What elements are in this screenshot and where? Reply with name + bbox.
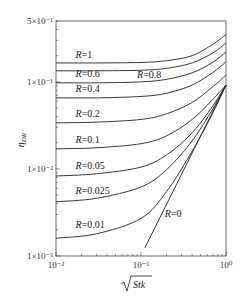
y-tick-label: 1×10⁻² <box>27 164 53 174</box>
curve-label: R=0.2 <box>75 108 100 119</box>
y-axis-label: ηDR <box>15 132 28 147</box>
chart-svg: R=1R=0.8R=0.6R=0.4R=0.2R=0.1R=0.05R=0.02… <box>0 0 245 307</box>
curve-label: R=0.025 <box>75 185 110 196</box>
curve-label: R=0.05 <box>75 160 105 171</box>
svg-text:ηDR: ηDR <box>15 132 28 147</box>
y-tick-label: 1×10⁻¹ <box>27 77 53 87</box>
curve-label: R=0.01 <box>75 219 105 230</box>
curve-label: R=0 <box>164 208 182 219</box>
curve-labels: R=1R=0.8R=0.6R=0.4R=0.2R=0.1R=0.05R=0.02… <box>75 49 182 230</box>
y-tick-label: 5×10⁻¹ <box>27 16 53 26</box>
curve-label: R=1 <box>75 49 93 60</box>
curve-label: R=0.8 <box>136 69 161 80</box>
curve-label: R=0.1 <box>75 134 100 145</box>
svg-text:Stk: Stk <box>133 279 146 290</box>
x-axis-label: Stk <box>121 276 152 291</box>
series-line-r-0 <box>145 85 226 248</box>
x-tick-label: 10⁻¹ <box>133 260 150 270</box>
x-tick-label: 10⁰ <box>220 260 233 270</box>
curve-label: R=0.6 <box>75 68 100 79</box>
x-tick-label: 10⁻² <box>48 260 65 270</box>
curve-label: R=0.4 <box>75 83 100 94</box>
